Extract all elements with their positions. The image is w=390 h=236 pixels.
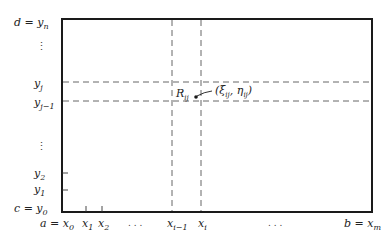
vertical-dots-top: ⋮	[36, 40, 47, 53]
label-d-yn: d = yn	[14, 16, 49, 31]
partition-diagram: d = yn ⋮ yj yj−1 ⋮ y2 y1 c = y0 a = x0 x…	[0, 0, 390, 236]
vertical-dots-bottom: ⋮	[36, 140, 47, 153]
label-xi: xi	[198, 217, 207, 232]
label-yj: yj	[33, 77, 43, 92]
horizontal-dots-left: . . .	[128, 218, 142, 228]
label-xi-minus-1: xi−1	[167, 217, 188, 232]
dashed-grid	[63, 20, 371, 211]
label-c-y0: c = y0	[14, 202, 48, 217]
label-y1: y1	[33, 183, 45, 198]
label-x1: x1	[82, 217, 93, 232]
horizontal-dots-right: . . .	[268, 218, 282, 228]
region-rectangle	[62, 19, 372, 212]
label-b-xm: b = xm	[344, 217, 381, 232]
label-yj-minus-1: yj−1	[33, 96, 55, 111]
ticks	[62, 173, 102, 212]
label-a-x0: a = x0	[40, 217, 74, 232]
pointer-arrow	[197, 91, 212, 96]
label-region-rij: Rij	[175, 87, 190, 102]
label-x2: x2	[98, 217, 109, 232]
label-point-xi-eta: (ξij, ηij)	[215, 84, 252, 99]
label-y2: y2	[33, 167, 45, 182]
